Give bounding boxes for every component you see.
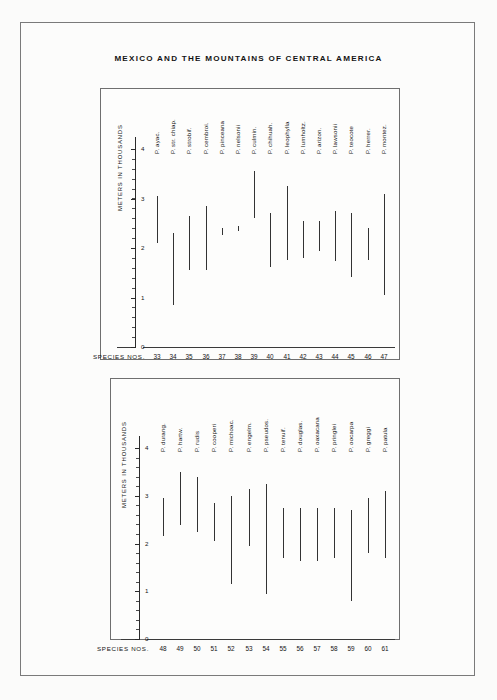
- species-name-label: P. pringlei: [330, 424, 337, 452]
- x-tick-label: 57: [308, 645, 326, 652]
- x-tick-label: 53: [240, 645, 258, 652]
- y-minor-tick: [132, 218, 135, 219]
- y-minor-tick: [136, 563, 139, 564]
- species-range-bar: [317, 508, 318, 561]
- x-tick-label: 56: [291, 645, 309, 652]
- species-range-bar: [189, 216, 190, 270]
- species-name-label: P. michoac.: [227, 419, 234, 452]
- y-minor-tick: [136, 467, 139, 468]
- y-minor-tick: [136, 582, 139, 583]
- species-name-label: P. tenuif.: [279, 427, 286, 452]
- y-major-tick: [135, 591, 140, 592]
- species-name-label: P. lawsonii: [331, 124, 338, 154]
- species-range-bar: [287, 186, 288, 260]
- species-name-label: P. hartw.: [176, 428, 183, 452]
- species-name-label: P. str. chiap.: [169, 119, 176, 154]
- y-minor-tick: [132, 169, 135, 170]
- y-tick-label: 4: [145, 445, 157, 451]
- species-range-bar: [173, 233, 174, 305]
- species-name-label: P. nelsonii: [234, 125, 241, 154]
- y-major-tick: [131, 149, 136, 150]
- y-tick-label: 2: [145, 541, 157, 547]
- y-minor-tick: [136, 515, 139, 516]
- y-major-tick: [135, 448, 140, 449]
- y-minor-tick: [136, 610, 139, 611]
- x-tick-label: 45: [342, 353, 360, 360]
- y-minor-tick: [136, 534, 139, 535]
- y-minor-tick: [132, 317, 135, 318]
- y-major-tick: [131, 199, 136, 200]
- y-minor-tick: [132, 208, 135, 209]
- y-major-tick: [135, 544, 140, 545]
- x-tick-label: 51: [205, 645, 223, 652]
- y-minor-tick: [136, 629, 139, 630]
- y-minor-tick: [136, 477, 139, 478]
- x-tick-label: 47: [375, 353, 393, 360]
- species-name-label: P. strobif.: [185, 127, 192, 154]
- y-minor-tick: [132, 337, 135, 338]
- y-tick-label: 4: [141, 146, 153, 152]
- species-name-label: P. durang.: [159, 423, 166, 452]
- species-name-label: P. douglas.: [296, 421, 303, 452]
- species-range-bar: [197, 477, 198, 532]
- y-major-tick: [131, 298, 136, 299]
- plot-area-upper: 01234METERS IN THOUSANDSSPECIES NOS.33P.…: [101, 89, 399, 359]
- y-minor-tick: [136, 486, 139, 487]
- y-tick-label: 3: [145, 493, 157, 499]
- y-axis-title-upper: METERS IN THOUSANDS: [117, 124, 123, 211]
- x-tick-label: 52: [222, 645, 240, 652]
- x-tick-label: 61: [376, 645, 394, 652]
- species-name-label: P. herrer.: [364, 128, 371, 154]
- y-tick-label: 0: [145, 636, 157, 642]
- species-name-label: P. pseudos.: [262, 419, 269, 452]
- y-minor-tick: [136, 553, 139, 554]
- y-major-tick: [131, 347, 136, 348]
- x-tick-label: 40: [261, 353, 279, 360]
- species-range-bar: [180, 472, 181, 525]
- y-minor-tick: [132, 189, 135, 190]
- species-range-bar: [283, 508, 284, 558]
- species-range-bar: [303, 221, 304, 258]
- species-name-label: P. lumholtz.: [299, 121, 306, 154]
- species-name-label: P. teocote: [347, 126, 354, 154]
- y-minor-tick: [132, 258, 135, 259]
- y-minor-tick: [132, 159, 135, 160]
- species-range-bar: [254, 171, 255, 218]
- x-tick-label: 58: [325, 645, 343, 652]
- y-minor-tick: [136, 572, 139, 573]
- y-major-tick: [135, 639, 140, 640]
- species-name-label: P. oaxacana: [313, 417, 320, 452]
- x-tick-label: 35: [180, 353, 198, 360]
- y-minor-tick: [136, 458, 139, 459]
- species-name-label: P. greggi: [364, 427, 371, 452]
- species-range-bar: [335, 211, 336, 261]
- y-minor-tick: [132, 238, 135, 239]
- species-name-label: P. oocarpa: [347, 422, 354, 452]
- species-name-label: P. culmin.: [250, 127, 257, 154]
- y-axis-line-upper: [135, 137, 136, 347]
- species-range-bar: [214, 503, 215, 541]
- species-name-label: P. engelm.: [245, 422, 252, 452]
- y-minor-tick: [132, 327, 135, 328]
- chart-panel-lower: 01234METERS IN THOUSANDSSPECIES NOS.48P.…: [110, 378, 400, 640]
- species-name-label: P. cooperi: [210, 424, 217, 452]
- baseline-rule-lower-1: [147, 639, 395, 640]
- x-tick-label: 49: [171, 645, 189, 652]
- y-tick-label: 1: [141, 295, 153, 301]
- species-range-bar: [351, 510, 352, 601]
- x-tick-label: 59: [342, 645, 360, 652]
- y-minor-tick: [132, 288, 135, 289]
- species-range-bar: [249, 489, 250, 546]
- y-minor-tick: [132, 278, 135, 279]
- y-tick-label: 2: [141, 245, 153, 251]
- species-range-bar: [231, 496, 232, 584]
- species-name-label: P. montez.: [380, 124, 387, 154]
- y-axis-title-lower: METERS IN THOUSANDS: [121, 421, 127, 508]
- y-minor-tick: [136, 505, 139, 506]
- species-range-bar: [157, 196, 158, 243]
- x-tick-label: 54: [257, 645, 275, 652]
- y-minor-tick: [136, 601, 139, 602]
- species-range-bar: [270, 213, 271, 267]
- figure-page: MEXICO AND THE MOUNTAINS OF CENTRAL AMER…: [0, 0, 497, 700]
- chart-panel-upper: 01234METERS IN THOUSANDSSPECIES NOS.33P.…: [100, 88, 400, 360]
